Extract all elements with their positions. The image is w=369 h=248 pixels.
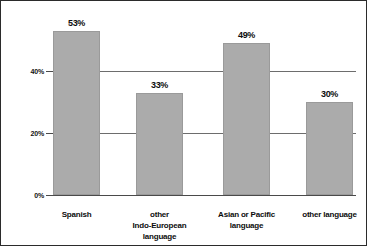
category-label-other-indo-european: other Indo-European language <box>120 209 199 242</box>
bar-value-asian-or-pacific: 49% <box>238 30 255 40</box>
tick-mark-0 <box>46 195 53 196</box>
category-line: language <box>207 220 286 231</box>
category-line: Indo-European <box>120 220 199 231</box>
category-line: language <box>120 231 199 242</box>
chart-frame: 0% 20% 40% 53% 33% 49% 30% Spanish <box>0 0 367 246</box>
category-line: Spanish <box>37 209 116 220</box>
category-label-other-language: other language <box>290 209 369 220</box>
y-tick-label-40: 40% <box>31 68 44 75</box>
y-tick-label-0: 0% <box>34 192 44 199</box>
y-tick-label-20: 20% <box>31 130 44 137</box>
tick-mark-20 <box>46 133 53 134</box>
category-line: Asian or Pacific <box>207 209 286 220</box>
bar-other-indo-european[interactable]: 33% <box>136 93 183 195</box>
bar-value-other-indo-european: 33% <box>151 80 168 90</box>
category-label-asian-or-pacific: Asian or Pacific language <box>207 209 286 231</box>
bar-asian-or-pacific[interactable]: 49% <box>223 43 270 195</box>
category-line: other language <box>290 209 369 220</box>
bar-value-spanish: 53% <box>68 18 85 28</box>
category-line: other <box>120 209 199 220</box>
category-label-spanish: Spanish <box>37 209 116 220</box>
axis-baseline <box>53 195 356 196</box>
tick-mark-40 <box>46 71 53 72</box>
plot-area: 0% 20% 40% 53% 33% 49% 30% Spanish <box>53 9 356 195</box>
bar-spanish[interactable]: 53% <box>53 31 100 195</box>
bar-other-language[interactable]: 30% <box>306 102 353 195</box>
bar-value-other-language: 30% <box>321 89 338 99</box>
